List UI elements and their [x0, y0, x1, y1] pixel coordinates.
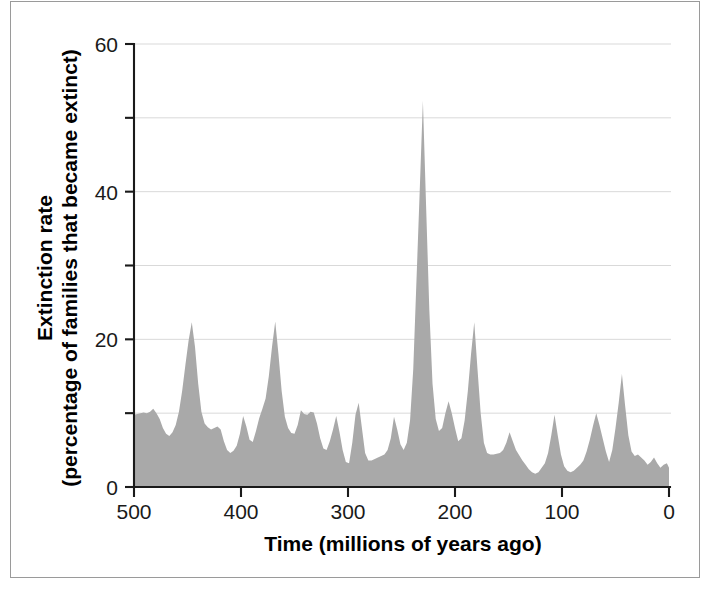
y-tick-label-40: 40: [95, 181, 118, 204]
y-axis-ticks-group: [125, 44, 134, 487]
x-tick-label-0: 0: [663, 500, 675, 523]
gridlines-group: [134, 44, 671, 413]
x-tick-label-400: 400: [223, 500, 258, 523]
y-tick-label-20: 20: [95, 328, 118, 351]
y-tick-label-60: 60: [95, 33, 118, 56]
x-axis-ticks-group: [134, 487, 669, 497]
y-axis-tick-labels-group: 0204060: [95, 33, 118, 499]
x-axis-tick-labels-group: 5004003002001000: [116, 500, 674, 523]
y-axis-title-line1: Extinction rate: [33, 195, 56, 341]
y-axis-title-line2: (percentage of families that became exti…: [58, 49, 81, 487]
extinction-rate-chart: 0204060 5004003002001000 Time (millions …: [0, 0, 711, 596]
x-tick-label-100: 100: [544, 500, 579, 523]
x-tick-label-200: 200: [437, 500, 472, 523]
y-tick-label-0: 0: [106, 476, 118, 499]
x-axis-title: Time (millions of years ago): [264, 532, 541, 555]
x-tick-label-300: 300: [330, 500, 365, 523]
chart-plot-area: 0204060 5004003002001000 Time (millions …: [0, 0, 711, 596]
x-tick-label-500: 500: [116, 500, 151, 523]
extinction-rate-area: [134, 101, 669, 487]
